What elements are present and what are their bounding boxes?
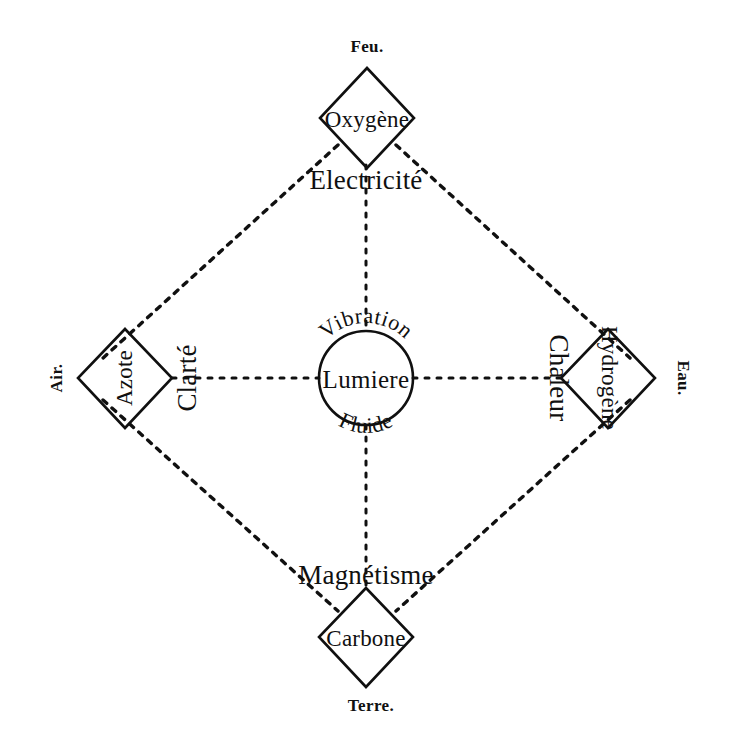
force-label-chaleur: Chaleur: [545, 335, 572, 422]
edge-oxygene-azote: [103, 145, 338, 358]
center-core-label: Lumiere: [323, 367, 410, 392]
force-label-magnetisme: Magnétisme: [298, 562, 433, 589]
node-label-oxygene: Oxygène: [325, 108, 409, 131]
node-label-hydrogene: Hydrogène: [598, 326, 621, 430]
force-label-electricite: Electricité: [309, 167, 422, 194]
diagram-canvas: Vibration Fluide Lumiere Feu. Oxygène El…: [0, 0, 733, 754]
element-label-air: Air.: [48, 364, 65, 393]
element-label-feu: Feu.: [350, 38, 383, 55]
edge-oxygene-hydrogene: [396, 145, 630, 358]
element-label-terre: Terre.: [348, 697, 394, 714]
arc-label-vibration: Vibration: [314, 303, 418, 343]
node-label-azote: Azote: [113, 350, 136, 406]
element-label-eau: Eau.: [675, 360, 692, 395]
force-label-clarte: Clarté: [174, 344, 201, 411]
node-label-carbone: Carbone: [326, 627, 405, 650]
arc-label-fluide: Fluide: [336, 407, 397, 438]
